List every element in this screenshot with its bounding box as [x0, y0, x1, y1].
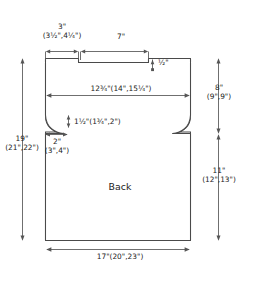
label-body-length: 11" (12",13") — [202, 166, 236, 185]
total-length-alts: (21",22") — [5, 143, 39, 152]
hem-width-value: 17"(20",23") — [97, 252, 144, 261]
garment-schematic-drawing — [0, 0, 272, 283]
body-length-alts: (12",13") — [202, 175, 236, 184]
upper-back-width-value: 12¾"(14",15¼") — [91, 84, 152, 93]
label-neck-drop: ½" — [158, 58, 169, 67]
piece-name-label: Back — [109, 181, 132, 192]
armhole-depth-base: 8" — [215, 83, 223, 92]
label-shoulder-width: 3" (3½",4¼") — [43, 22, 82, 41]
total-length-base: 19" — [16, 134, 29, 143]
body-length-base: 11" — [213, 166, 226, 175]
label-armhole-inset: 2" (3",4") — [45, 137, 69, 156]
label-hem-width: 17"(20",23") — [97, 252, 144, 261]
label-armhole-straight: 1½"(1¾",2") — [74, 117, 121, 126]
neck-drop-base: ½" — [158, 58, 169, 67]
label-neck-width: 7" — [117, 32, 125, 41]
armhole-inset-base: 2" — [53, 137, 61, 146]
armhole-inset-alts: (3",4") — [45, 146, 69, 155]
armhole-depth-alts: (9",9") — [207, 92, 231, 101]
armhole-straight-value: 1½"(1¾",2") — [74, 117, 121, 126]
label-upper-back-width: 12¾"(14",15¼") — [91, 84, 152, 93]
label-armhole-depth: 8" (9",9") — [207, 83, 231, 102]
label-total-length: 19" (21",22") — [5, 134, 39, 153]
neck-width-base: 7" — [117, 32, 125, 41]
shoulder-width-alts: (3½",4¼") — [43, 31, 82, 40]
dim-neck-width — [81, 50, 149, 60]
shoulder-width-base: 3" — [58, 22, 66, 31]
dim-body-length — [217, 134, 221, 240]
